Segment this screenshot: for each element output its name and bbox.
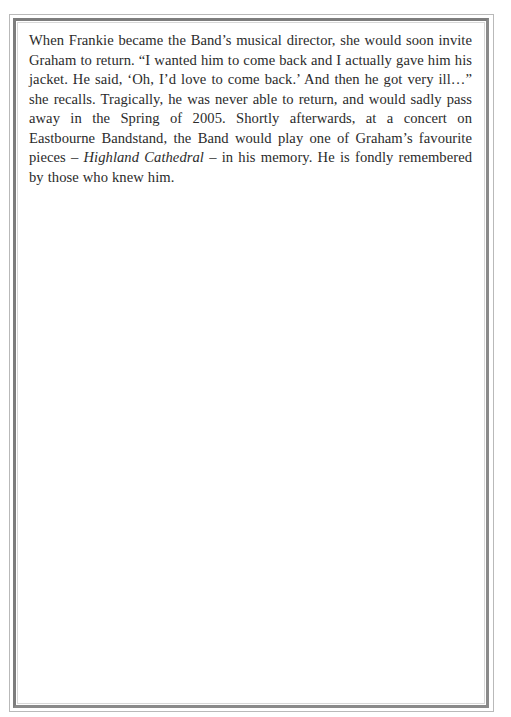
body-paragraph: When Frankie became the Band’s musical d…	[29, 31, 472, 187]
piece-title-italic: Highland Cathedral	[84, 149, 204, 165]
paragraph-text-part-1: When Frankie became the Band’s musical d…	[29, 32, 472, 165]
